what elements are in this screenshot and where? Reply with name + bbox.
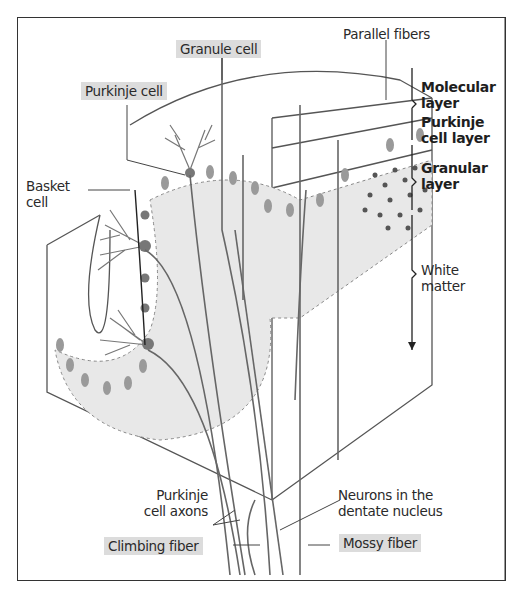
label-granule-cell: Granule cell: [176, 40, 261, 58]
label-granular-layer-2: layer: [421, 176, 459, 192]
label-purkinje-axons-1: Purkinje: [120, 487, 208, 503]
label-mossy-fiber: Mossy fiber: [339, 534, 421, 552]
label-purkinje-axons-2: cell axons: [120, 503, 208, 519]
label-white-matter-2: matter: [421, 278, 465, 294]
label-dentate-2: dentate nucleus: [338, 503, 443, 519]
white-matter-arrow-icon: [408, 342, 416, 350]
label-purkinje-cell: Purkinje cell: [81, 82, 167, 100]
label-purkinje-layer-2: cell layer: [421, 130, 490, 146]
label-basket-cell-1: Basket: [26, 178, 70, 194]
label-climbing-fiber: Climbing fiber: [104, 537, 203, 555]
label-dentate-1: Neurons in the: [338, 487, 433, 503]
label-purkinje-layer-1: Purkinje: [421, 114, 484, 130]
label-molecular-layer-1: Molecular: [421, 79, 496, 95]
label-parallel-fibers: Parallel fibers: [343, 26, 430, 42]
label-granular-layer-1: Granular: [421, 160, 488, 176]
label-basket-cell-2: cell: [26, 194, 48, 210]
label-molecular-layer-2: layer: [421, 95, 459, 111]
label-white-matter-1: White: [421, 262, 459, 278]
